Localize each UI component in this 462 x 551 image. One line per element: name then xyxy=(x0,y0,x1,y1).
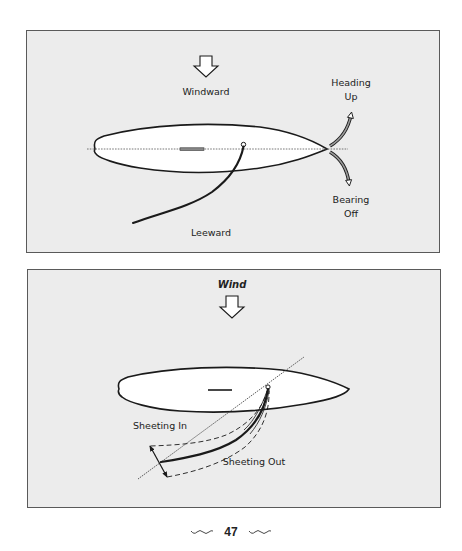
curved-arrow-down-icon xyxy=(330,152,349,183)
sheeting-in-label: Sheeting In xyxy=(133,420,187,431)
top-diagram xyxy=(87,56,351,223)
sailing-diagrams xyxy=(0,0,462,551)
sheeting-out-label: Sheeting Out xyxy=(223,456,285,467)
down-arrow-icon xyxy=(220,296,244,318)
bearing-off-label: Bearing Off xyxy=(333,194,370,219)
boom xyxy=(180,148,204,151)
wave-ornament-icon xyxy=(248,528,272,536)
leeward-label: Leeward xyxy=(191,227,231,238)
page-footer: 47 xyxy=(0,524,462,540)
heading-up-label: Heading Up xyxy=(331,77,371,102)
down-arrow-icon xyxy=(194,56,218,77)
hull-outline xyxy=(118,367,349,412)
bottom-diagram xyxy=(118,296,349,479)
wave-ornament-icon xyxy=(190,528,214,536)
hull-outline xyxy=(94,124,327,172)
wind-label: Wind xyxy=(218,279,247,290)
curved-arrow-up-icon xyxy=(330,115,351,146)
page-number: 47 xyxy=(224,525,237,539)
windward-label: Windward xyxy=(182,86,229,97)
